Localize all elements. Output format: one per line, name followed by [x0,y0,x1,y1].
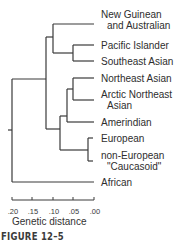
leaf-label-line2: and Australian [101,20,170,31]
leaf-label: non-European [101,150,164,161]
tick-label: .05 [69,207,79,216]
leaf-label: Pacific Islander [101,40,169,51]
leaf-non-european-caucasoid: non-European "Caucasoid" [101,150,164,172]
leaf-amerindian: Amerindian [101,117,152,128]
leaf-label: Amerindian [101,117,152,128]
tick-label: .10 [49,207,59,216]
leaf-label: Northeast Asian [101,73,172,84]
leaf-new-guinean: New Guinean and Australian [101,9,170,31]
axis-title: Genetic distance [12,216,87,227]
leaf-arctic-northeast-asian: Arctic Northeast Asian [101,89,172,111]
leaf-label-line2: Asian [101,100,172,111]
leaf-african: African [101,177,132,188]
leaf-label: New Guinean [101,9,162,20]
leaf-label: African [101,177,132,188]
figure-caption: FIGURE 12–5 [1,231,64,242]
leaf-southeast-asian: Southeast Asian [101,56,173,67]
leaf-european: European [101,133,144,144]
leaf-pacific-islander: Pacific Islander [101,40,169,51]
leaf-label: European [101,133,144,144]
tick-label: .20 [8,207,18,216]
tick-label: .15 [28,207,38,216]
leaf-label: Southeast Asian [101,56,173,67]
tick-label: .00 [90,207,100,216]
leaf-label: Arctic Northeast [101,89,172,100]
leaf-northeast-asian: Northeast Asian [101,73,172,84]
leaf-label-line2: "Caucasoid" [101,161,164,172]
